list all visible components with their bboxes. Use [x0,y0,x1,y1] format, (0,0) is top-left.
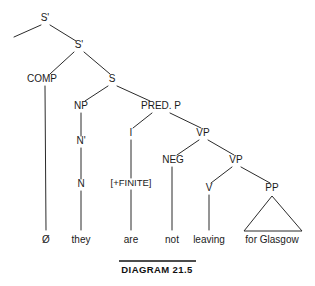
node-comp: COMP [27,73,57,84]
terminal-word: leaving [193,234,225,245]
node-pp: PP [265,182,279,193]
node-s: S [109,73,116,84]
edge-pred-p-to-i [133,113,152,128]
syntax-tree-diagram: S' S' COMP S NP N' N PRED. P I [+FINITE]… [0,0,315,286]
terminal-word: Ø [42,234,50,245]
node-n: N [77,178,84,189]
edge-s-bar-top-to-left-stub [14,25,41,37]
node-i: I [130,127,133,138]
node-v: V [206,182,213,193]
node-pred-p: PRED. P [141,100,181,111]
terminal-word: are [124,234,139,245]
edge-s-bar-top-to-s-bar-inner [50,25,76,41]
edge-s-bar-inner-to-comp [50,52,74,74]
edge-vp-upper-to-vp-lower [208,140,234,155]
terminal-word: not [165,234,179,245]
node-np: NP [74,100,88,111]
diagram-caption: DIAGRAM 21.5 [121,264,193,275]
edge-comp-to-null-terminal [45,86,46,230]
node-finite-feature: [+FINITE] [111,177,152,188]
node-neg: NEG [162,154,184,165]
terminal-word: they [72,234,91,245]
edge-vp-lower-to-v [211,167,232,183]
edge-vp-lower-to-pp [241,167,270,183]
edge-vp-upper-to-neg [177,140,199,155]
node-vp-lower: VP [229,154,243,165]
node-s-bar-top: S' [41,12,50,23]
node-vp-upper: VP [196,127,210,138]
edge-s-bar-inner-to-s [84,52,110,74]
pp-triangle [244,196,302,231]
edge-s-to-np [85,86,108,101]
edge-pred-p-to-vp-upper [170,113,201,128]
node-n-bar: N' [76,135,85,146]
node-s-bar-inner: S' [75,39,84,50]
edge-s-to-pred-p [117,86,150,101]
terminal-word: for Glasgow [245,234,299,245]
